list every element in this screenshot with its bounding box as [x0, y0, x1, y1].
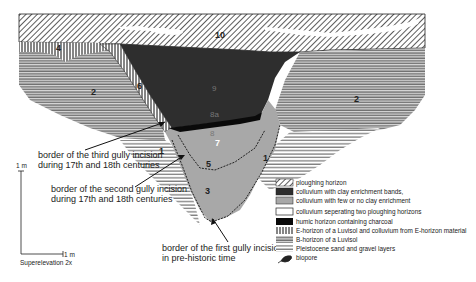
legend-swatch-e-horizon — [276, 227, 293, 234]
scale-horizontal-label: 1 m — [64, 251, 75, 258]
legend-swatch-pleistocene — [276, 245, 293, 252]
first-gully-label-line1: border of the first gully incision — [162, 243, 284, 253]
legend-label-pleistocene: Pleistocene sand and gravel layers — [296, 245, 395, 253]
label-4: 4 — [56, 43, 61, 53]
legend-label-humic: humic horizon containing charcoal — [296, 218, 393, 226]
label-1-right: 1 — [263, 153, 268, 163]
soil-profile-diagram: 10 4 2 2 6 9 8a 8 7 5 3 1 1 border of th… — [0, 0, 476, 282]
label-8: 8 — [210, 129, 215, 138]
label-10: 10 — [215, 30, 225, 40]
legend-swatch-humic — [276, 218, 293, 225]
legend-swatch-dark-colluvium — [276, 188, 293, 195]
legend-label-biopore: biopore — [296, 254, 318, 262]
unit-2-right-b-horizon — [275, 48, 425, 135]
legend-swatch-b-horizon — [276, 236, 293, 243]
label-7: 7 — [215, 138, 220, 148]
second-gully-label-line1: border of the second gully incision — [51, 184, 187, 194]
label-9: 9 — [212, 84, 217, 93]
legend-label-dark-colluvium: colluvium with clay enrichment bands, — [296, 188, 403, 196]
first-gully-label-line2: in pre-historic time — [162, 253, 236, 263]
label-3: 3 — [205, 186, 210, 196]
legend: ploughing horizon colluvium with clay en… — [276, 179, 467, 263]
legend-swatch-white-colluvium — [276, 208, 293, 215]
label-8a: 8a — [210, 110, 219, 119]
arrow-first-gully — [211, 218, 228, 242]
legend-swatch-ploughing — [276, 179, 293, 186]
superelevation-label: Superelevation 2x — [20, 259, 73, 267]
second-gully-label-line2: during 17th and 18th centuries — [51, 194, 173, 204]
legend-swatch-grey-colluvium — [276, 197, 293, 204]
label-6: 6 — [137, 81, 142, 91]
legend-label-white-colluvium: colluvium seperating two ploughing horiz… — [296, 208, 421, 216]
legend-label-e-horizon: E-horizon of a Luvisol and colluvium fro… — [296, 227, 467, 234]
label-2-right: 2 — [354, 94, 359, 104]
white-lens — [163, 29, 183, 35]
label-2-left: 2 — [91, 87, 96, 97]
legend-label-b-horizon: B-horizon of a Luvisol — [296, 236, 357, 243]
label-5: 5 — [206, 159, 211, 169]
third-gully-label-line2: during 17th and 18th centuries — [38, 160, 160, 170]
third-gully-label-line1: border of the third gully incision — [38, 150, 163, 160]
legend-label-grey-colluvium: colluvium with few or no clay enrichment — [296, 197, 411, 205]
legend-label-ploughing: ploughing horizon — [296, 179, 347, 187]
biopore-icon — [278, 256, 292, 263]
scale-vertical-label: 1 m — [16, 162, 27, 169]
